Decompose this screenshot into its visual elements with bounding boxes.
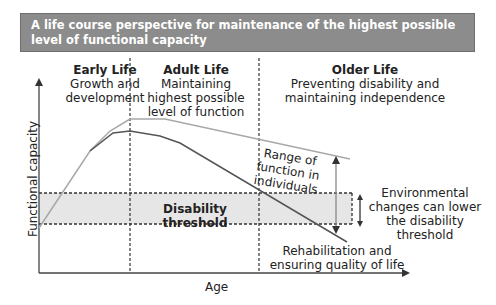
phase-adult-life: Adult Life Maintaining highest possible … — [140, 63, 252, 119]
phase-title: Older Life — [280, 63, 450, 77]
phase-older-life: Older Life Preventing disability and mai… — [280, 63, 450, 105]
y-axis-label: Functional capacity — [26, 114, 40, 244]
phase-description: Preventing disability and maintaining in… — [285, 77, 445, 105]
phase-description: Growth and development — [65, 77, 144, 105]
x-axis-label: Age — [205, 280, 228, 294]
phase-description: Maintaining highest possible level of fu… — [147, 77, 244, 119]
phase-early-life: Early Life Growth and development — [60, 63, 150, 105]
threshold-label: Disability threshold — [130, 202, 260, 230]
phase-title: Adult Life — [140, 63, 252, 77]
rehab-label: Rehabilitation and ensuring quality of l… — [262, 244, 412, 272]
phase-title: Early Life — [60, 63, 150, 77]
environment-label: Environmental changes can lower the disa… — [360, 186, 490, 242]
